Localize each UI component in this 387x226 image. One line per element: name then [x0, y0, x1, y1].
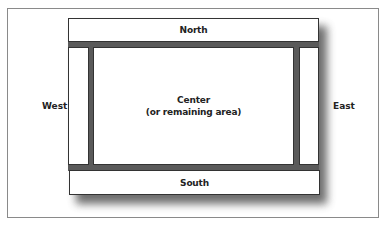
center-label: Center — [177, 94, 210, 106]
east-label: East — [333, 101, 355, 111]
center-region: Center (or remaining area) — [93, 47, 294, 165]
west-label: West — [42, 101, 67, 111]
south-label: South — [180, 177, 209, 189]
west-region — [68, 47, 89, 165]
east-region — [299, 47, 319, 165]
south-region: South — [69, 170, 320, 195]
north-label: North — [180, 24, 208, 36]
center-sublabel: (or remaining area) — [146, 106, 241, 118]
north-region: North — [68, 18, 319, 42]
